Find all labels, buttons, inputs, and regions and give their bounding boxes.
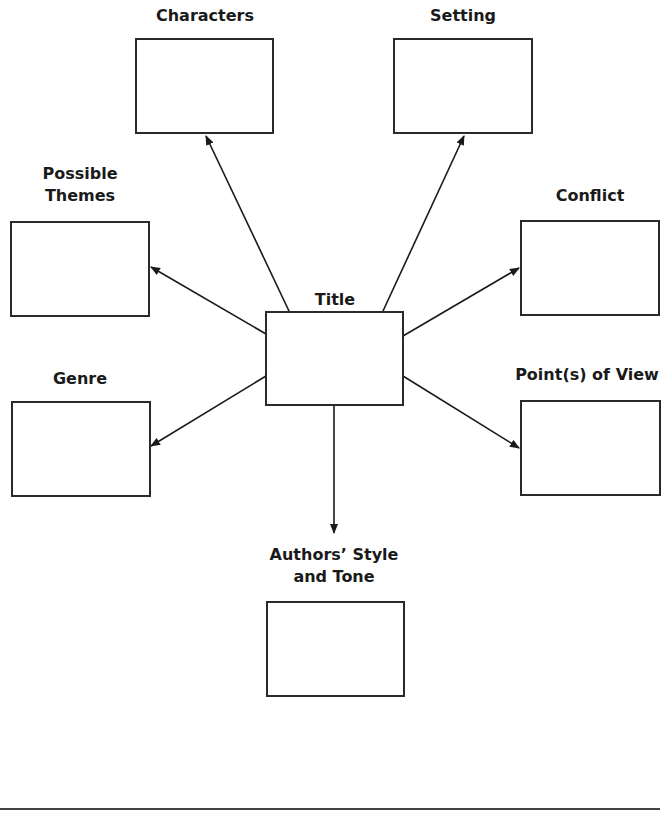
themes-label-line1: Possible (10, 163, 150, 185)
style-label-line2: and Tone (254, 566, 414, 588)
themes-label: Possible Themes (10, 163, 150, 207)
genre-label: Genre (10, 368, 150, 390)
style-label: Authors’ Style and Tone (254, 544, 414, 588)
conflict-box[interactable] (520, 220, 660, 316)
arrow-to-themes (151, 267, 266, 334)
arrow-to-setting (383, 136, 464, 311)
setting-label: Setting (393, 5, 533, 27)
pov-label: Point(s) of View (512, 364, 662, 386)
pov-box[interactable] (520, 400, 661, 496)
genre-box[interactable] (11, 401, 151, 497)
footer-rule (0, 808, 660, 810)
style-label-line1: Authors’ Style (254, 544, 414, 566)
arrow-to-genre (151, 376, 266, 446)
title-box[interactable] (265, 311, 404, 406)
characters-label: Characters (136, 5, 274, 27)
themes-label-line2: Themes (10, 185, 150, 207)
themes-box[interactable] (10, 221, 150, 317)
characters-box[interactable] (135, 38, 274, 134)
setting-box[interactable] (393, 38, 533, 134)
style-box[interactable] (266, 601, 405, 697)
arrow-to-pov (403, 376, 519, 448)
arrow-to-conflict (403, 268, 519, 336)
arrow-to-characters (206, 136, 289, 311)
title-label: Title (266, 289, 404, 311)
conflict-label: Conflict (520, 185, 660, 207)
